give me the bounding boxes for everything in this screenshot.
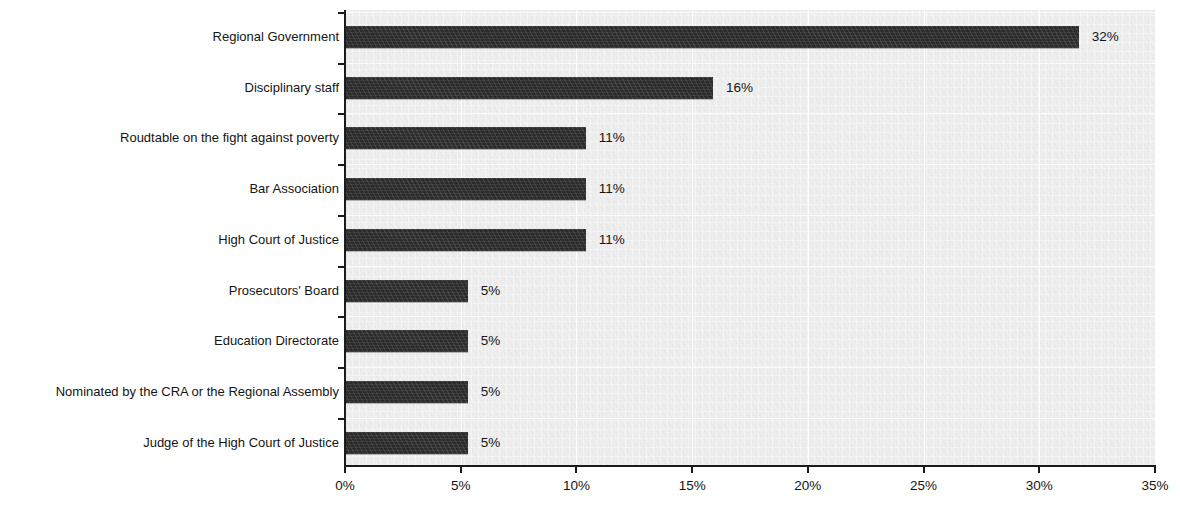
bar-texture (345, 280, 468, 302)
gridline-horizontal (345, 63, 1155, 64)
x-axis-line (344, 465, 1156, 467)
bar[interactable] (345, 381, 468, 403)
y-axis-tick (338, 266, 345, 268)
y-axis-line (344, 10, 346, 467)
bar-value-label: 11% (599, 232, 625, 247)
y-axis-tick (338, 12, 345, 14)
x-axis-tick (691, 466, 693, 473)
y-axis-tick (338, 113, 345, 115)
y-axis-tick (338, 367, 345, 369)
bar-value-label: 11% (599, 130, 625, 145)
y-axis-tick (338, 63, 345, 65)
plot-area (345, 10, 1155, 466)
category-label: High Court of Justice (218, 232, 339, 247)
bar-texture (345, 26, 1079, 48)
x-tick-label: 5% (451, 478, 471, 494)
x-axis-tick (923, 466, 925, 473)
bar-texture (345, 127, 586, 149)
bar-value-label: 11% (599, 181, 625, 196)
x-axis-tick (460, 466, 462, 473)
x-tick-label: 20% (794, 478, 821, 494)
bar-texture (345, 77, 713, 99)
bar-chart: Regional GovernmentDisciplinary staffRou… (0, 0, 1180, 506)
x-tick-label: 25% (910, 478, 937, 494)
y-axis-tick (338, 215, 345, 217)
bar-value-label: 5% (481, 283, 501, 298)
gridline-horizontal (345, 113, 1155, 114)
bar[interactable] (345, 77, 713, 99)
bar-texture (345, 178, 586, 200)
x-axis-tick (807, 466, 809, 473)
x-tick-label: 15% (679, 478, 706, 494)
bar[interactable] (345, 229, 586, 251)
gridline-vertical (1039, 10, 1040, 466)
bar[interactable] (345, 127, 586, 149)
gridline-horizontal (345, 215, 1155, 216)
x-tick-label: 10% (563, 478, 590, 494)
gridline-horizontal (345, 367, 1155, 368)
bar-texture (345, 330, 468, 352)
x-tick-label: 30% (1026, 478, 1053, 494)
gridline-vertical (808, 10, 809, 466)
category-label: Prosecutors' Board (229, 283, 339, 298)
bar[interactable] (345, 330, 468, 352)
category-label: Nominated by the CRA or the Regional Ass… (56, 384, 339, 399)
x-axis-tick (1038, 466, 1040, 473)
x-tick-label: 35% (1141, 478, 1168, 494)
gridline-horizontal (345, 418, 1155, 419)
category-label: Education Directorate (214, 333, 339, 348)
bar-value-label: 5% (481, 435, 501, 450)
gridline-horizontal (345, 12, 1155, 13)
gridline-horizontal (345, 164, 1155, 165)
bar-texture (345, 432, 468, 454)
bar[interactable] (345, 432, 468, 454)
bar-value-label: 5% (481, 384, 501, 399)
bar[interactable] (345, 280, 468, 302)
gridline-horizontal (345, 316, 1155, 317)
bar-value-label: 5% (481, 333, 501, 348)
bar-texture (345, 381, 468, 403)
x-axis-tick (575, 466, 577, 473)
category-label: Bar Association (249, 181, 339, 196)
bar-value-label: 32% (1092, 29, 1119, 44)
bar-texture (345, 229, 586, 251)
bar[interactable] (345, 26, 1079, 48)
bar-value-label: 16% (726, 80, 753, 95)
category-label: Regional Government (213, 29, 339, 44)
x-axis-tick (1154, 466, 1156, 473)
y-axis-tick (338, 164, 345, 166)
category-label: Judge of the High Court of Justice (143, 435, 339, 450)
x-tick-label: 0% (335, 478, 355, 494)
category-label: Disciplinary staff (245, 80, 339, 95)
gridline-horizontal (345, 266, 1155, 267)
category-label: Roudtable on the fight against poverty (120, 130, 339, 145)
x-axis-tick (344, 466, 346, 473)
y-axis-tick (338, 418, 345, 420)
gridline-vertical (924, 10, 925, 466)
bar[interactable] (345, 178, 586, 200)
y-axis-tick (338, 316, 345, 318)
